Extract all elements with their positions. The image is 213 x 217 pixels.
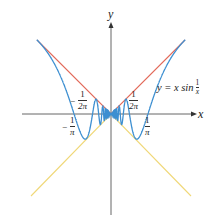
tick-numerator: 1 bbox=[145, 116, 150, 125]
curve-equation-text: y = x sin bbox=[157, 82, 194, 93]
tick-numerator: 1 bbox=[80, 90, 85, 99]
fraction-denominator: x bbox=[196, 88, 199, 96]
tick-neg-inv-2pi: 1 2π bbox=[78, 90, 87, 111]
y-axis-arrow-icon bbox=[109, 22, 114, 28]
curve-equation-fraction: 1 x bbox=[196, 79, 200, 96]
x-axis-label: x bbox=[198, 108, 203, 120]
tick-denominator: π bbox=[70, 128, 75, 137]
y-axis-label: y bbox=[108, 8, 113, 20]
curve-equation-label: y = x sin 1 x bbox=[157, 79, 199, 96]
tick-neg-inv-2pi-sign: − bbox=[70, 96, 75, 106]
tick-neg-inv-pi-sign: − bbox=[62, 122, 67, 132]
plot-canvas bbox=[0, 0, 213, 217]
tick-denominator: 2π bbox=[78, 102, 87, 111]
tick-denominator: π bbox=[145, 128, 150, 137]
tick-denominator: 2π bbox=[129, 102, 138, 111]
fraction-numerator: 1 bbox=[196, 79, 200, 87]
tick-numerator: 1 bbox=[70, 116, 75, 125]
tick-neg-inv-pi: 1 π bbox=[70, 116, 75, 137]
x-axis-arrow-icon bbox=[191, 112, 197, 117]
tick-pos-inv-2pi: 1 2π bbox=[129, 90, 138, 111]
tick-numerator: 1 bbox=[131, 90, 136, 99]
tick-pos-inv-pi: 1 π bbox=[145, 116, 150, 137]
